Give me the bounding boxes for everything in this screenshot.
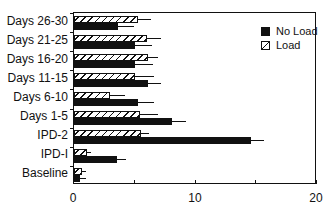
error-bar — [135, 45, 152, 46]
bar-noload — [74, 156, 117, 163]
category-label: Baseline — [22, 166, 68, 180]
x-tick-label-20: 20 — [309, 191, 322, 205]
y-tick — [70, 89, 74, 90]
bar-load — [74, 73, 135, 80]
error-bar — [110, 95, 125, 96]
y-tick — [70, 70, 74, 71]
error-bar — [118, 26, 134, 27]
bar-load — [74, 149, 87, 156]
y-tick — [70, 13, 74, 14]
bar-noload — [74, 80, 148, 87]
legend-label-no-load: No Load — [276, 25, 318, 37]
bar-noload — [74, 61, 135, 68]
error-bar — [138, 102, 154, 103]
x-tick — [195, 180, 196, 184]
x-tick — [255, 180, 256, 184]
category-label: Days 11-15 — [8, 71, 68, 85]
error-bar — [82, 171, 86, 172]
category-label: Days 16-20 — [7, 52, 68, 66]
legend-swatch-no-load — [261, 27, 270, 36]
error-bar — [147, 38, 162, 39]
bar-noload — [74, 118, 172, 125]
bar-load — [74, 130, 141, 137]
bar-noload — [74, 42, 135, 49]
category-label: IPD-I — [41, 147, 68, 161]
bar-noload — [74, 137, 251, 144]
error-bar — [87, 152, 91, 153]
category-label: Days 6-10 — [13, 90, 68, 104]
category-label: IPD-2 — [37, 128, 68, 142]
bar-noload — [74, 23, 118, 30]
legend-label-load: Load — [276, 39, 300, 51]
error-bar — [251, 140, 263, 141]
bar-load — [74, 168, 82, 175]
error-bar — [141, 133, 150, 134]
bar-load — [74, 35, 147, 42]
legend-swatch-load — [261, 41, 270, 50]
bar-load — [74, 111, 140, 118]
error-bar — [138, 19, 150, 20]
y-tick — [70, 32, 74, 33]
error-bar — [148, 83, 161, 84]
error-bar — [148, 57, 158, 58]
y-tick — [70, 51, 74, 52]
error-bar — [117, 159, 127, 160]
error-bar — [135, 76, 154, 77]
bar-load — [74, 54, 148, 61]
y-tick — [70, 128, 74, 129]
category-label: Days 26-30 — [7, 14, 68, 28]
category-label: Days 21-25 — [7, 33, 68, 47]
error-bar — [140, 114, 158, 115]
bar-load — [74, 16, 138, 23]
category-label: Days 1-5 — [20, 109, 68, 123]
error-bar — [80, 178, 86, 179]
x-tick-label-10: 10 — [188, 191, 201, 205]
plot-area — [73, 12, 316, 184]
bar-noload — [74, 99, 138, 106]
x-tick-label-0: 0 — [70, 191, 77, 205]
x-tick — [316, 180, 317, 184]
error-bar — [172, 121, 185, 122]
x-tick — [73, 180, 74, 184]
y-tick — [70, 166, 74, 167]
y-tick — [70, 147, 74, 148]
y-tick — [70, 109, 74, 110]
error-bar — [135, 64, 153, 65]
x-tick — [134, 180, 135, 184]
bar-load — [74, 92, 110, 99]
